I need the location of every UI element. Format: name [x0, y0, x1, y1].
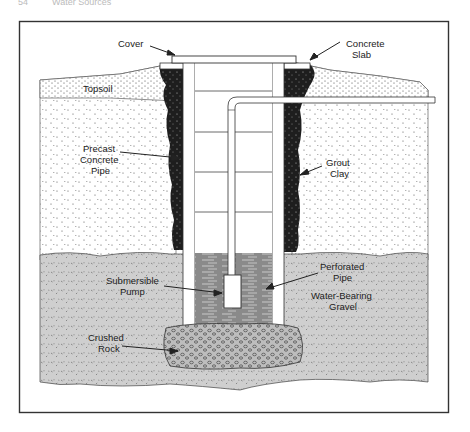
- label-perforated-line1: Perforated: [320, 261, 364, 272]
- crushed-rock: [164, 324, 303, 370]
- page-header: 54 Water Sources: [18, 0, 112, 7]
- label-crushed-line2: Rock: [98, 343, 120, 354]
- label-perforated-line2: Pipe: [333, 272, 352, 283]
- label-submersible-line1: Submersible: [106, 275, 159, 286]
- well-cover: [172, 56, 296, 63]
- label-cover: Cover: [118, 38, 143, 49]
- casing-wall-right: [272, 62, 284, 340]
- label-concrete-slab-line2: Slab: [352, 49, 371, 60]
- running-title: Water Sources: [52, 0, 112, 7]
- label-submersible-line2: Pump: [120, 286, 145, 297]
- label-crushed-line1: Crushed: [88, 332, 124, 343]
- label-grout-line2: Clay: [330, 168, 349, 179]
- concrete-slab-right: [284, 63, 310, 69]
- label-precast-line2: Concrete: [80, 154, 119, 165]
- label-grout-line1: Grout: [326, 157, 350, 168]
- label-concrete-slab-line1: Concrete: [346, 38, 385, 49]
- concrete-slab-left: [160, 63, 184, 69]
- label-water-bearing-line1: Water-Bearing: [311, 290, 372, 301]
- page-number: 54: [18, 0, 28, 7]
- submersible-pump: [224, 275, 241, 308]
- label-precast-line3: Pipe: [91, 165, 110, 176]
- casing-wall-left: [183, 62, 195, 340]
- label-water-bearing-line2: Gravel: [329, 301, 357, 312]
- well-diagram: 54 Water Sources: [0, 0, 470, 432]
- label-precast-line1: Precast: [83, 143, 116, 154]
- label-topsoil: Topsoil: [83, 83, 113, 94]
